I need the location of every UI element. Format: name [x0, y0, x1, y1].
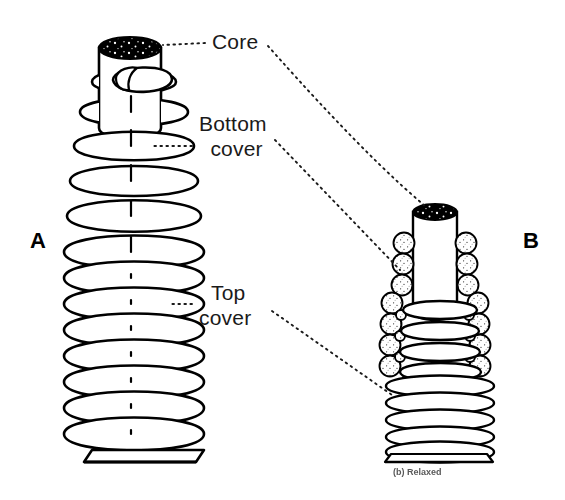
leader-core-to-b	[268, 46, 424, 205]
figure-canvas: Core Bottom cover Top cover A B (b) Rela…	[0, 0, 565, 500]
core-top-face-b	[413, 204, 457, 220]
label-core-text: Core	[212, 30, 258, 53]
caption-panel-b: (b) Relaxed	[393, 467, 442, 477]
panel-a-base	[84, 450, 204, 462]
leader-top-to-b	[272, 311, 392, 395]
panel-a-coil-end-tab	[113, 67, 172, 91]
panel-letter-b: B	[523, 228, 539, 254]
bead	[456, 233, 477, 254]
spring-diagram-svg	[0, 0, 565, 500]
label-top-cover-line1: Top	[199, 281, 251, 306]
bead	[393, 254, 414, 275]
label-bottom-cover-line1: Bottom	[199, 112, 267, 137]
panel-b-drawing	[380, 204, 495, 463]
panel-a-drawing	[64, 37, 204, 462]
label-top-cover-line2: cover	[199, 306, 251, 331]
bead	[394, 233, 415, 254]
label-core: Core	[212, 30, 258, 55]
label-bottom-cover: Bottom cover	[199, 112, 267, 162]
panel-b-lower-coil	[386, 376, 494, 463]
leader-core-to-a	[163, 43, 205, 45]
bead	[457, 254, 478, 275]
label-bottom-cover-line2: cover	[199, 137, 267, 162]
label-top-cover: Top cover	[199, 281, 251, 331]
panel-b-base	[385, 454, 493, 462]
leader-bottom-to-b	[275, 140, 400, 270]
panel-letter-a: A	[30, 228, 46, 254]
panel-a-lower-coil	[64, 236, 204, 451]
core-top-face-a	[99, 37, 161, 59]
